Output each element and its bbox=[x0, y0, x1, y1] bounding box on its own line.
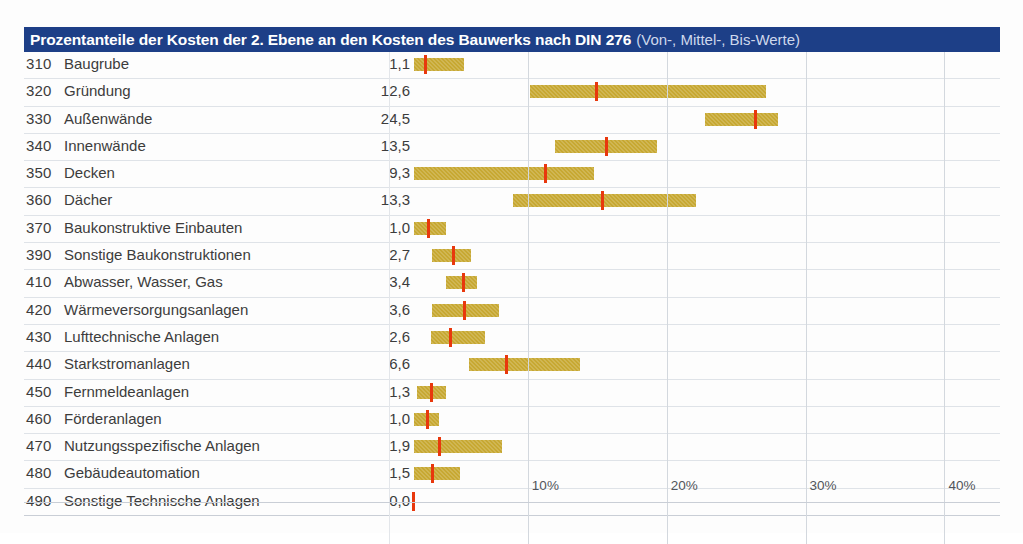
range-bar bbox=[414, 440, 501, 453]
row-value: 6,6 bbox=[324, 355, 410, 372]
row-code: 350 bbox=[26, 164, 51, 181]
mean-marker bbox=[427, 219, 430, 238]
table-row[interactable]: 320Gründung12,6 bbox=[24, 79, 1000, 106]
row-value: 1,0 bbox=[324, 410, 410, 427]
row-label: Gründung bbox=[64, 82, 131, 99]
range-bar bbox=[705, 113, 779, 126]
row-value: 1,0 bbox=[324, 219, 410, 236]
table-row[interactable]: 340Innenwände13,5 bbox=[24, 134, 1000, 161]
range-bar bbox=[414, 58, 464, 71]
mean-marker bbox=[754, 110, 757, 129]
range-bar bbox=[513, 194, 696, 207]
table-row[interactable]: 310Baugrube1,1 bbox=[24, 52, 1000, 79]
row-code: 370 bbox=[26, 219, 51, 236]
row-range-plot bbox=[413, 52, 1000, 78]
row-label: Sonstige Baukonstruktionen bbox=[64, 246, 251, 263]
row-label: Förderanlagen bbox=[64, 410, 162, 427]
page-title: Prozentanteile der Kosten der 2. Ebene a… bbox=[30, 31, 631, 49]
row-label: Dächer bbox=[64, 191, 112, 208]
table-row[interactable]: 410Abwasser, Wasser, Gas3,4 bbox=[24, 270, 1000, 297]
row-label: Wärmeversorgungsanlagen bbox=[64, 301, 248, 318]
range-bar bbox=[414, 222, 446, 235]
cost-group-table: 310Baugrube1,1320Gründung12,6330Außenwän… bbox=[24, 52, 1000, 516]
range-bar bbox=[431, 331, 485, 344]
table-row[interactable]: 430Lufttechnische Anlagen2,6 bbox=[24, 325, 1000, 352]
row-value: 2,6 bbox=[324, 328, 410, 345]
range-bar bbox=[530, 85, 766, 98]
x-tick-label: 40% bbox=[948, 478, 975, 493]
table-row[interactable]: 350Decken9,3 bbox=[24, 161, 1000, 188]
row-code: 420 bbox=[26, 301, 51, 318]
table-row[interactable]: 360Dächer13,3 bbox=[24, 188, 1000, 215]
row-range-plot bbox=[413, 243, 1000, 269]
mean-marker bbox=[462, 273, 465, 292]
table-row[interactable]: 440Starkstromanlagen6,6 bbox=[24, 352, 1000, 379]
mean-marker bbox=[430, 383, 433, 402]
row-value: 13,5 bbox=[324, 137, 410, 154]
row-code: 410 bbox=[26, 273, 51, 290]
row-range-plot bbox=[413, 434, 1000, 460]
range-bar bbox=[469, 358, 580, 371]
row-value: 2,7 bbox=[324, 246, 410, 263]
row-range-plot bbox=[413, 325, 1000, 351]
row-code: 450 bbox=[26, 383, 51, 400]
chart-title-bar: Prozentanteile der Kosten der 2. Ebene a… bbox=[24, 27, 1000, 52]
row-range-plot bbox=[413, 352, 1000, 378]
mean-marker bbox=[438, 437, 441, 456]
row-label: Nutzungsspezifische Anlagen bbox=[64, 437, 260, 454]
mean-marker bbox=[426, 410, 429, 429]
row-label: Starkstromanlagen bbox=[64, 355, 190, 372]
row-range-plot bbox=[413, 107, 1000, 133]
row-label: Baugrube bbox=[64, 55, 129, 72]
row-value: 24,5 bbox=[324, 110, 410, 127]
table-row[interactable]: 370Baukonstruktive Einbauten1,0 bbox=[24, 216, 1000, 243]
row-code: 490 bbox=[26, 492, 51, 509]
row-range-plot bbox=[413, 407, 1000, 433]
row-code: 360 bbox=[26, 191, 51, 208]
row-value: 9,3 bbox=[324, 164, 410, 181]
table-row[interactable]: 420Wärmeversorgungsanlagen3,6 bbox=[24, 298, 1000, 325]
row-value: 1,1 bbox=[324, 55, 410, 72]
x-tick-label: 20% bbox=[671, 478, 698, 493]
x-axis: 10%20%30%40% bbox=[389, 478, 1000, 502]
table-row[interactable]: 470Nutzungsspezifische Anlagen1,9 bbox=[24, 434, 1000, 461]
row-label: Abwasser, Wasser, Gas bbox=[64, 273, 223, 290]
row-value: 12,6 bbox=[324, 82, 410, 99]
row-label: Lufttechnische Anlagen bbox=[64, 328, 219, 345]
row-range-plot bbox=[413, 188, 1000, 214]
mean-marker bbox=[601, 191, 604, 210]
table-row[interactable]: 450Fernmeldeanlagen1,3 bbox=[24, 380, 1000, 407]
mean-marker bbox=[595, 82, 598, 101]
row-label: Baukonstruktive Einbauten bbox=[64, 219, 242, 236]
row-range-plot bbox=[413, 380, 1000, 406]
mean-marker bbox=[544, 164, 547, 183]
row-code: 430 bbox=[26, 328, 51, 345]
row-code: 330 bbox=[26, 110, 51, 127]
table-row[interactable]: 390Sonstige Baukonstruktionen2,7 bbox=[24, 243, 1000, 270]
row-range-plot bbox=[413, 134, 1000, 160]
row-range-plot bbox=[413, 161, 1000, 187]
row-code: 480 bbox=[26, 464, 51, 481]
x-tick-label: 30% bbox=[810, 478, 837, 493]
row-code: 440 bbox=[26, 355, 51, 372]
table-row[interactable]: 330Außenwände24,5 bbox=[24, 107, 1000, 134]
row-label: Außenwände bbox=[64, 110, 152, 127]
row-code: 320 bbox=[26, 82, 51, 99]
mean-marker bbox=[463, 301, 466, 320]
x-tick-label: 10% bbox=[532, 478, 559, 493]
table-row[interactable]: 460Förderanlagen1,0 bbox=[24, 407, 1000, 434]
row-range-plot bbox=[413, 270, 1000, 296]
row-range-plot bbox=[413, 216, 1000, 242]
row-code: 470 bbox=[26, 437, 51, 454]
row-label: Sonstige Technische Anlagen bbox=[64, 492, 260, 509]
mean-marker bbox=[605, 137, 608, 156]
range-bar bbox=[414, 167, 593, 180]
mean-marker bbox=[505, 355, 508, 374]
row-label: Fernmeldeanlagen bbox=[64, 383, 189, 400]
row-label: Innenwände bbox=[64, 137, 146, 154]
row-range-plot bbox=[413, 298, 1000, 324]
table-bottom-rule bbox=[24, 502, 1000, 503]
row-value: 3,4 bbox=[324, 273, 410, 290]
row-code: 460 bbox=[26, 410, 51, 427]
